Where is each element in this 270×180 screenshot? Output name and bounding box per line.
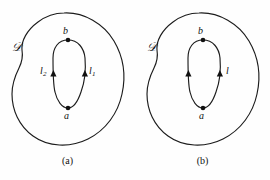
- label-arc-l2-a: l2: [40, 66, 46, 78]
- arrowhead-right-b: [217, 70, 223, 77]
- arrowhead-left-b: [185, 70, 191, 77]
- arrowhead-left-a: [50, 70, 56, 77]
- inner-loop-right-arc-a: [68, 40, 85, 108]
- caption-panel-a: (a): [0, 155, 135, 166]
- label-point-a-a: a: [64, 111, 69, 121]
- label-arc-l2-sub: 2: [43, 70, 47, 78]
- caption-panel-b: (b): [135, 155, 270, 166]
- point-b-dot-a: [66, 38, 71, 43]
- arrowhead-right-a: [82, 70, 88, 77]
- label-arc-l1-sub: 1: [92, 70, 96, 78]
- panel-a: b a l2 l1 𝒟 (a): [0, 0, 135, 180]
- point-b-dot-b: [201, 38, 206, 43]
- label-arc-l-b: l: [226, 66, 229, 76]
- label-domain-d-b: 𝒟: [147, 41, 157, 53]
- figure-root: b a l2 l1 𝒟 (a) b a l 𝒟 (b): [0, 0, 270, 180]
- panel-b: b a l 𝒟 (b): [135, 0, 270, 180]
- inner-loop-right-arc-b: [203, 40, 220, 108]
- label-point-a-b: a: [199, 111, 204, 121]
- label-point-b-a: b: [63, 26, 68, 36]
- label-arc-l1-a: l1: [89, 66, 95, 78]
- label-point-b-b: b: [198, 26, 203, 36]
- label-domain-d-a: 𝒟: [12, 41, 22, 53]
